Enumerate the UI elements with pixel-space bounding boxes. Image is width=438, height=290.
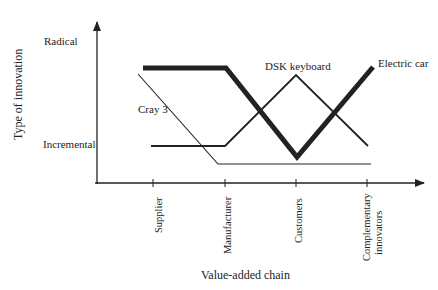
label-cray-3: Cray 3 xyxy=(138,103,168,115)
label-dsk-keyboard: DSK keyboard xyxy=(265,60,331,72)
x-tick-supplier: Supplier xyxy=(153,197,164,233)
x-axis-title: Value-added chain xyxy=(201,268,290,283)
x-tick-innovators: innovators xyxy=(373,211,384,255)
y-level-incremental: Incremental xyxy=(43,138,96,150)
x-axis xyxy=(95,179,424,187)
y-level-radical: Radical xyxy=(44,35,78,47)
x-tick-manufacturer: Manufacturer xyxy=(222,197,233,254)
x-tick-complementary: Complementary xyxy=(361,193,372,261)
y-axis-title: Type of innovation xyxy=(13,49,24,140)
label-electric-car: Electric car xyxy=(378,57,428,69)
x-tick-customers: Customers xyxy=(293,198,304,243)
series-cray-3 xyxy=(138,74,371,164)
